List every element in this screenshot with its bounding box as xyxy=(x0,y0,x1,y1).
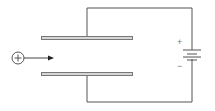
positive-charge-icon xyxy=(12,52,24,64)
battery-icon xyxy=(183,50,201,60)
velocity-arrow-icon xyxy=(24,56,54,61)
circuit-diagram xyxy=(0,0,215,111)
bottom-plate xyxy=(42,73,133,76)
battery-plus-label: + xyxy=(177,38,182,47)
top-plate xyxy=(42,37,133,40)
battery-minus-label: − xyxy=(177,62,182,71)
